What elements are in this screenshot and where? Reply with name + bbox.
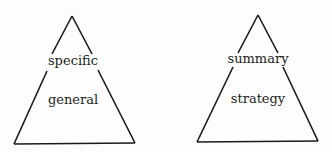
- left-pyramid-middle-label: general: [48, 92, 98, 107]
- right-pyramid-left-edge-lower: [197, 67, 233, 142]
- left-pyramid-right-edge-upper: [72, 16, 92, 54]
- left-pyramid-left-edge-upper: [52, 16, 72, 54]
- left-pyramid-right-edge-lower: [98, 70, 135, 143]
- left-pyramid: specific general: [14, 16, 135, 144]
- right-pyramid-left-edge-upper: [238, 15, 258, 53]
- diagram-canvas: specific general summary strategy: [0, 0, 332, 152]
- left-pyramid-left-edge-lower: [14, 71, 47, 144]
- right-pyramid-right-edge-upper: [258, 15, 278, 53]
- left-pyramid-base: [14, 143, 135, 144]
- right-pyramid-base: [197, 141, 318, 142]
- right-pyramid-top-label: summary: [227, 51, 289, 66]
- right-pyramid: summary strategy: [197, 15, 318, 142]
- right-pyramid-right-edge-lower: [283, 67, 318, 141]
- right-pyramid-middle-label: strategy: [231, 91, 286, 106]
- left-pyramid-top-label: specific: [48, 53, 98, 68]
- pyramids-svg: specific general summary strategy: [0, 0, 332, 152]
